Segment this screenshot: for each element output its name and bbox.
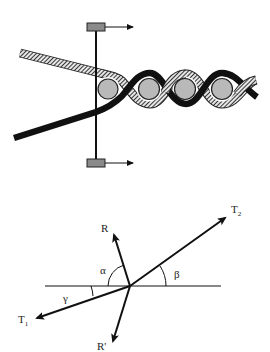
label-T2: T2 — [231, 203, 242, 218]
label-R: R — [101, 222, 109, 234]
alpha-arc — [108, 265, 124, 286]
figure: R R' T2 T1 α β γ — [0, 0, 270, 352]
label-R-prime: R' — [97, 340, 106, 352]
label-beta: β — [174, 268, 180, 280]
vector-R-prime — [113, 286, 130, 341]
twisted-strand-diagram — [14, 23, 257, 167]
bottom-slider — [87, 159, 133, 167]
gamma-arc — [91, 286, 93, 296]
vector-T1 — [37, 286, 130, 318]
label-gamma: γ — [62, 292, 68, 304]
label-T1: T1 — [18, 313, 29, 328]
beta-arc — [160, 266, 166, 286]
top-slider — [87, 23, 133, 31]
force-vector-diagram: R R' T2 T1 α β γ — [18, 203, 242, 352]
vector-R — [114, 235, 130, 286]
label-alpha: α — [100, 264, 106, 276]
